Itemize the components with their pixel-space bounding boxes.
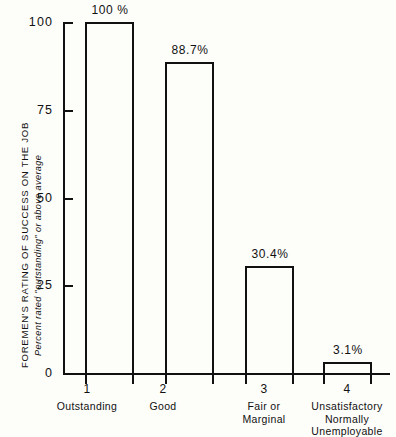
y-tick-label-0: 0 [13, 367, 53, 380]
bar-value-2: 88.7% [155, 44, 225, 56]
x-category-2-label: Good [126, 400, 200, 412]
x-axis-line [63, 373, 390, 375]
y-axis-title: FOREMEN'S RATING OF SUCCESS ON THE JOB [19, 122, 30, 368]
bar-1 [85, 22, 134, 373]
y-tick-50 [65, 198, 73, 200]
x-category-3-label-line1: Fair or [228, 400, 300, 412]
y-tick-100 [65, 22, 73, 24]
y-tick-25 [65, 285, 73, 287]
x-category-2: 2 Good [126, 382, 200, 413]
bar-value-1: 100 % [75, 4, 145, 16]
y-axis-label-group: FOREMEN'S RATING OF SUCCESS ON THE JOB P… [0, 0, 44, 380]
x-category-1: 1 Outstanding [40, 382, 134, 413]
bar-2 [165, 62, 214, 373]
x-category-3-label-line2: Marginal [228, 413, 300, 425]
y-tick-label-50: 50 [13, 192, 53, 205]
y-axis-subtitle: Percent rated "outstanding" or above ave… [33, 155, 43, 356]
bar-value-3: 30.4% [235, 248, 305, 260]
y-tick-label-75: 75 [13, 104, 53, 117]
x-category-3-number: 3 [228, 382, 300, 396]
x-category-1-number: 1 [40, 382, 134, 396]
x-category-4-number: 4 [300, 382, 394, 396]
x-category-4-label-line3: Unemployable [300, 425, 394, 437]
y-tick-label-25: 25 [13, 279, 53, 292]
x-category-1-label: Outstanding [40, 400, 134, 412]
bar-value-4: 3.1% [313, 344, 383, 356]
bar-3 [245, 266, 294, 373]
x-category-4: 4 Unsatisfactory Normally Unemployable [300, 382, 394, 437]
x-tick-2-right [212, 375, 214, 384]
bar-4 [323, 362, 372, 373]
y-tick-label-100: 100 [13, 16, 53, 29]
x-category-2-number: 2 [126, 382, 200, 396]
x-category-3: 3 Fair or Marginal [228, 382, 300, 425]
x-category-4-label-line2: Normally [300, 413, 394, 425]
plot-area: 100 75 50 25 0 100 % 88.7% 30.4% 3.1% [63, 22, 390, 373]
x-category-4-label-line1: Unsatisfactory [300, 400, 394, 412]
y-tick-75 [65, 110, 73, 112]
